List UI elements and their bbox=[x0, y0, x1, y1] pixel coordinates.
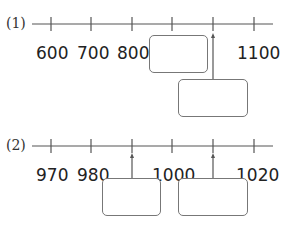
answer-box[interactable] bbox=[149, 35, 208, 73]
answer-box[interactable] bbox=[178, 178, 248, 216]
problem-1-label: (1) bbox=[6, 15, 26, 31]
tick-label: 600 bbox=[36, 43, 68, 63]
problem-2-label: (2) bbox=[6, 137, 26, 153]
tick-label: 970 bbox=[36, 165, 68, 185]
answer-box[interactable] bbox=[102, 178, 161, 216]
answer-box[interactable] bbox=[178, 79, 248, 117]
tick-label: 700 bbox=[77, 43, 109, 63]
tick-label: 1100 bbox=[237, 43, 280, 63]
tick-label: 800 bbox=[117, 43, 149, 63]
